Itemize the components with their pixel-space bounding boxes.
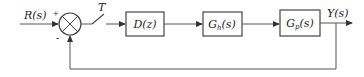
plus-sign: +: [53, 8, 59, 19]
output-signal: Y(s): [320, 7, 352, 23]
plant-main: G: [286, 17, 295, 30]
input-label: R(s): [23, 9, 47, 22]
controller-main: D: [132, 18, 142, 31]
minus-sign: -: [56, 32, 59, 43]
svg-text:Gh(s): Gh(s): [208, 18, 236, 32]
plant-block: Gp(s): [280, 10, 320, 36]
output-label: Y(s): [327, 7, 349, 20]
block-diagram: R(s) + - T D(z) Gh(s) Gp(s): [0, 0, 364, 77]
sampler-switch: T: [92, 1, 107, 24]
hold-main: G: [208, 18, 217, 31]
hold-arg: (s): [222, 18, 236, 31]
summing-junction: + -: [53, 8, 81, 43]
sampling-period-label: T: [98, 1, 107, 14]
controller-arg: (z): [142, 18, 156, 31]
controller-block: D(z): [126, 12, 164, 36]
plant-arg: (s): [300, 17, 314, 30]
svg-text:Gp(s): Gp(s): [286, 17, 314, 31]
hold-block: Gh(s): [203, 12, 242, 36]
svg-text:D(z): D(z): [132, 18, 156, 31]
